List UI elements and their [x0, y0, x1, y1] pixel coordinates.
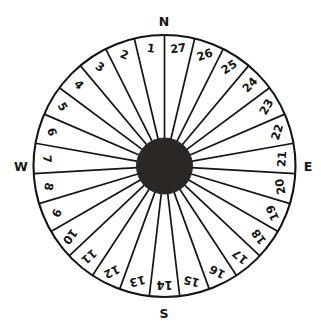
sector-number-label: 21: [274, 151, 289, 168]
cardinal-label-e: E: [304, 159, 313, 174]
compass-wheel-svg: 1234567891011121314151617181920212223242…: [0, 0, 321, 336]
cardinal-label-s: S: [159, 306, 168, 321]
sector-number-label: 14: [156, 278, 172, 292]
cardinal-label-n: N: [159, 14, 169, 29]
center-hub: [137, 138, 193, 194]
sector-number-label: 27: [169, 40, 187, 56]
sector-number-label: 7: [40, 155, 54, 164]
sector-number-label: 1: [146, 41, 156, 56]
cardinal-label-w: W: [14, 159, 28, 174]
sector-number-label: 20: [272, 177, 289, 195]
compass-wheel-figure: 1234567891011121314151617181920212223242…: [0, 0, 321, 336]
